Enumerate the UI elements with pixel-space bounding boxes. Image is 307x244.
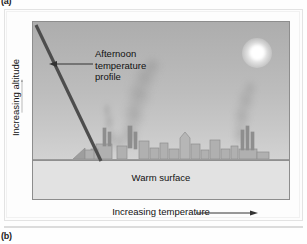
figure-label-b: (b) <box>1 231 12 241</box>
profile-annotation: Afternoon temperature profile <box>95 48 146 83</box>
figure-label-a: (a) <box>1 0 11 6</box>
annotation-line-1: Afternoon <box>95 48 146 60</box>
y-axis-label: Increasing altitude <box>10 38 21 158</box>
figure-separator <box>4 226 303 228</box>
leader-arrow-icon <box>49 58 93 70</box>
arrow-up-icon <box>21 46 23 146</box>
temperature-profile-line <box>33 22 290 200</box>
plot-area: Warm surface Afternoon temperature profi… <box>32 21 290 200</box>
figure-page: (a) Increasing altitude <box>0 0 307 244</box>
annotation-line-3: profile <box>95 71 146 83</box>
annotation-line-2: temperature <box>95 60 146 72</box>
arrow-right-icon <box>196 209 258 217</box>
